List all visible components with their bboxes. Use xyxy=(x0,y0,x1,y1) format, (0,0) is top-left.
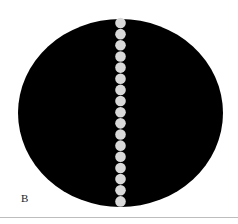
panel-label: B xyxy=(21,192,28,204)
dot xyxy=(115,51,126,62)
dot xyxy=(115,140,126,151)
dot xyxy=(115,107,126,118)
dot xyxy=(115,152,126,163)
bottom-divider xyxy=(0,217,238,218)
dot xyxy=(115,85,126,96)
dot xyxy=(115,174,126,185)
dot xyxy=(115,185,126,196)
dot xyxy=(115,40,126,51)
dot xyxy=(115,18,126,29)
dot xyxy=(115,29,126,40)
dot xyxy=(115,73,126,84)
dot xyxy=(115,62,126,73)
figure-canvas xyxy=(0,0,238,224)
dot xyxy=(115,163,126,174)
dot xyxy=(115,96,126,107)
dot-column xyxy=(115,18,126,207)
dot xyxy=(115,196,126,207)
dot xyxy=(115,129,126,140)
dot xyxy=(115,118,126,129)
